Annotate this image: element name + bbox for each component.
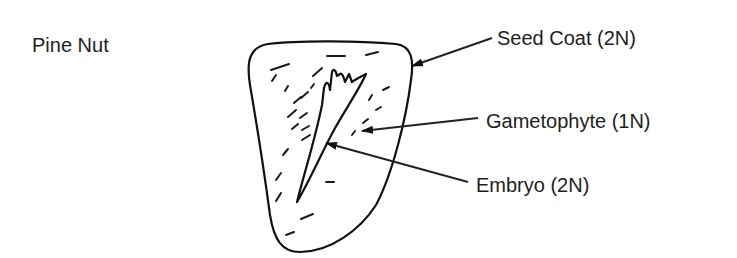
seed-coat-label: Seed Coat (2N) (497, 27, 636, 49)
gametophyte-arrow (362, 118, 478, 131)
seed-illustration (249, 41, 413, 252)
diagram-canvas: Pine Nut (0, 0, 737, 258)
embryo-label: Embryo (2N) (476, 174, 589, 196)
seed-coat-outline (249, 41, 413, 252)
pine-nut-diagram: Pine Nut (0, 0, 737, 258)
diagram-title: Pine Nut (32, 34, 109, 56)
gametophyte-label: Gametophyte (1N) (486, 110, 651, 132)
seed-coat-arrow (412, 38, 492, 66)
